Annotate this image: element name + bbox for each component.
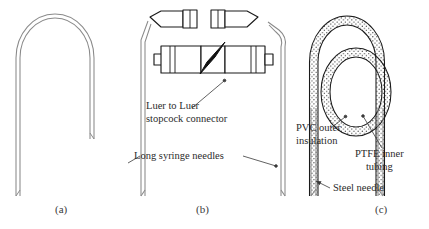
stopcock-label-line2: stopcock connector bbox=[146, 113, 227, 124]
stopcock-right-port bbox=[265, 54, 273, 65]
steel-label: Steel needle bbox=[333, 182, 384, 195]
ptfe-leader-dot bbox=[362, 115, 365, 118]
stopcock-label: Luer to Luer stopcock connector bbox=[146, 100, 227, 125]
pvc-label-line1: PVC outer bbox=[296, 122, 341, 133]
pvc-leader-dot bbox=[344, 115, 347, 118]
panel-caption-a: (a) bbox=[55, 203, 67, 215]
stopcock-right-barrel bbox=[225, 46, 265, 73]
pvc-label: PVC outer insulation bbox=[296, 122, 341, 147]
stopcock-leader-dot bbox=[223, 79, 226, 82]
ptfe-label: PTFE inner tubing bbox=[355, 148, 404, 173]
needles-label: Long syringe needles bbox=[134, 150, 224, 163]
needles-leader-dot bbox=[275, 165, 278, 168]
stopcock-label-line1: Luer to Luer bbox=[146, 100, 199, 111]
ptfe-label-line1: PTFE inner bbox=[355, 148, 404, 159]
panel-caption-c: (c) bbox=[375, 203, 387, 215]
panel-caption-b: (b) bbox=[196, 203, 209, 215]
ptfe-label-line2: tubing bbox=[366, 161, 393, 172]
stopcock-connector-body bbox=[154, 46, 273, 73]
stopcock-left-barrel bbox=[161, 46, 201, 73]
pvc-label-line2: insulation bbox=[296, 135, 337, 146]
